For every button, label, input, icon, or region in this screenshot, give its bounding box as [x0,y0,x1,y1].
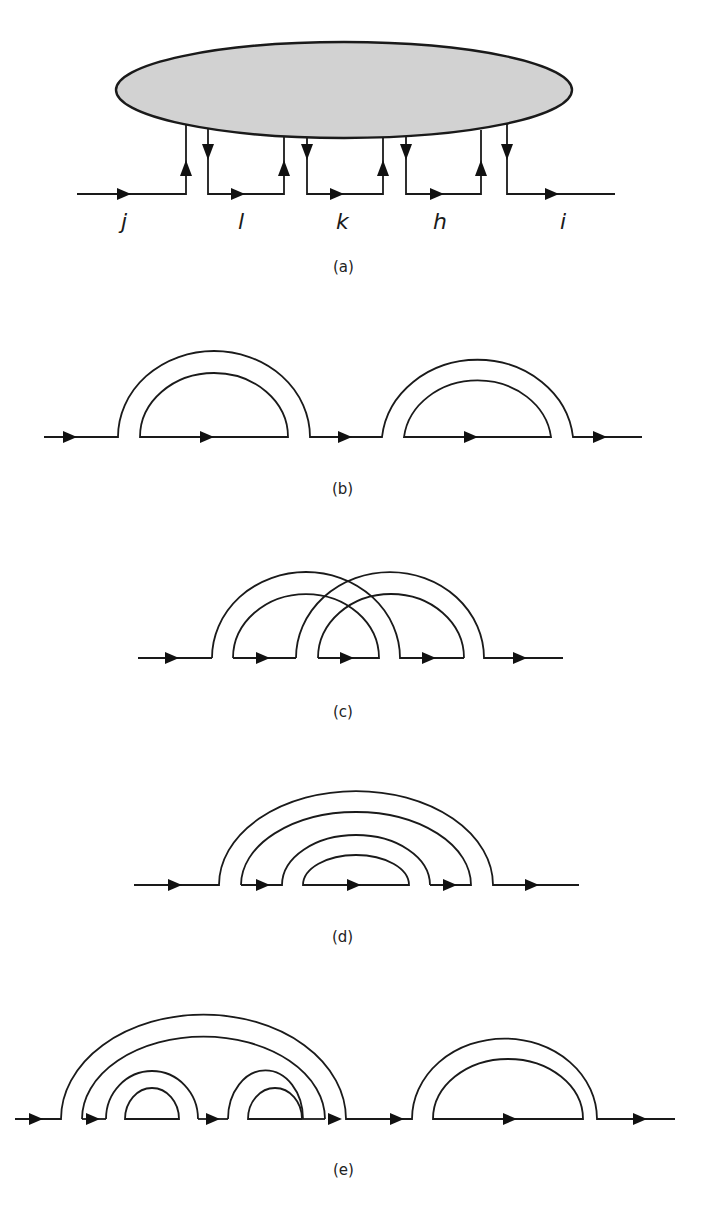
feynman-diagram-figure: j l k h i (a) (b) (c) [0,0,705,1209]
arrow-up-icon [180,160,192,176]
arrow-right-icon [633,1113,647,1125]
inner-loop [404,380,551,437]
arrow-up-icon [278,160,290,176]
small-arc-2-inner [248,1088,302,1119]
arrow-right-icon [545,188,559,200]
arrow-right-icon [390,1113,404,1125]
arrow-right-icon [117,188,131,200]
index-label-h: h [433,209,447,234]
panel-b: (b) [44,351,642,498]
arrow-right-icon [86,1113,100,1125]
arrow-right-icon [464,431,478,443]
line-l [208,128,284,194]
caption-c: (c) [333,703,353,721]
arrow-down-icon [301,144,313,160]
outer-line [15,1015,675,1119]
arrow-right-icon [256,652,270,664]
arrow-right-icon [328,1113,342,1125]
index-label-l: l [238,209,244,234]
arrow-right-icon [422,652,436,664]
small-arc-1-inner [125,1088,179,1119]
outer-line [44,351,642,437]
arrow-right-icon [525,879,539,891]
arrow-right-icon [206,1113,220,1125]
shaded-blob [116,42,572,138]
line-i [507,124,615,194]
panel-e: (e) [15,1015,675,1179]
arrow-down-icon [400,144,412,160]
arrow-right-icon [347,879,361,891]
arrow-right-icon [231,188,245,200]
arrow-right-icon [338,431,352,443]
small-arc-1-outer [106,1071,198,1119]
arrow-right-icon [200,431,214,443]
arrow-right-icon [63,431,77,443]
arrow-right-icon [443,879,457,891]
arrow-right-icon [330,188,344,200]
left-arc-inner [233,594,379,658]
index-label-k: k [336,209,350,234]
arrow-right-icon [165,652,179,664]
right-arc-inner [433,1059,583,1119]
arrow-right-icon [29,1113,43,1125]
arrow-down-icon [202,144,214,160]
big-arc-inner [82,1037,325,1119]
caption-d: (d) [332,928,353,946]
line-j [77,124,186,194]
arc-3 [241,835,430,885]
arrow-up-icon [377,160,389,176]
inner-loop [140,373,288,437]
line-k [307,137,383,194]
arrow-down-icon [501,144,513,160]
arrow-up-icon [475,160,487,176]
panel-a: j l k h i (a) [77,42,615,276]
arrow-right-icon [503,1113,517,1125]
arrow-right-icon [430,188,444,200]
arc-2 [241,812,471,885]
outer-line [134,791,579,885]
inner-loop [303,855,409,885]
index-label-i: i [560,209,566,234]
index-label-j: j [118,209,128,234]
arrow-right-icon [593,431,607,443]
panel-c: (c) [138,572,563,721]
caption-b: (b) [332,480,353,498]
caption-a: (a) [333,258,354,276]
arrow-right-icon [256,879,270,891]
arrow-right-icon [168,879,182,891]
arrow-right-icon [340,652,354,664]
panel-d: (d) [134,791,579,946]
caption-e: (e) [333,1161,354,1179]
arrow-right-icon [513,652,527,664]
line-h [406,130,481,194]
